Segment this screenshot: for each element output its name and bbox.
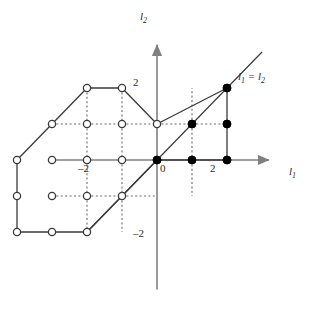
diagonal-equation-label: l1 = l2 [238,70,265,85]
diagonal-eq-equals: = [245,70,258,82]
lattice-point-open [83,84,90,91]
tick-label-y-neg2: –2 [133,227,144,239]
lattice-point-filled [188,120,196,128]
tick-label-x-0: 0 [160,162,166,174]
lattice-point-open [48,192,55,199]
lattice-point-open [83,120,90,127]
lattice-point-open [48,228,55,235]
lattice-edge-solid [17,124,52,160]
lattice-point-open [13,192,20,199]
lattice-point-open [48,156,55,163]
tick-label-x-2: 2 [210,162,216,174]
tick-label-y-2: 2 [133,76,139,88]
lattice-edge-solid [122,160,157,196]
lattice-point-filled [223,84,231,92]
lattice-edge-solid [122,88,157,124]
axis-label-x: l1 [289,165,296,180]
axis-label-y: l2 [140,10,147,25]
diagonal-eq-sub2: 2 [261,76,265,85]
lattice-point-open [83,228,90,235]
lattice-point-open [48,120,55,127]
lattice-point-filled [223,156,231,164]
lattice-point-open [118,84,125,91]
lattice-point-filled [223,120,231,128]
axis-label-x-sub: 1 [292,171,296,180]
figure-canvas: 2 –2 –2 0 2 l1 l2 l1 = l2 [0,0,314,324]
lattice-edge-solid [52,88,87,124]
lattice-point-open [13,156,20,163]
lattice-point-filled [188,156,196,164]
lattice-point-open [118,156,125,163]
lattice-point-open [118,192,125,199]
lattice-point-open [118,120,125,127]
lattice-plot-svg [0,0,314,324]
lattice-point-open [13,228,20,235]
lattice-edge-solid [87,196,122,232]
axis-label-y-sub: 2 [143,16,147,25]
lattice-point-open [83,192,90,199]
tick-label-x-neg2: –2 [78,162,89,174]
lattice-point-open [153,120,160,127]
